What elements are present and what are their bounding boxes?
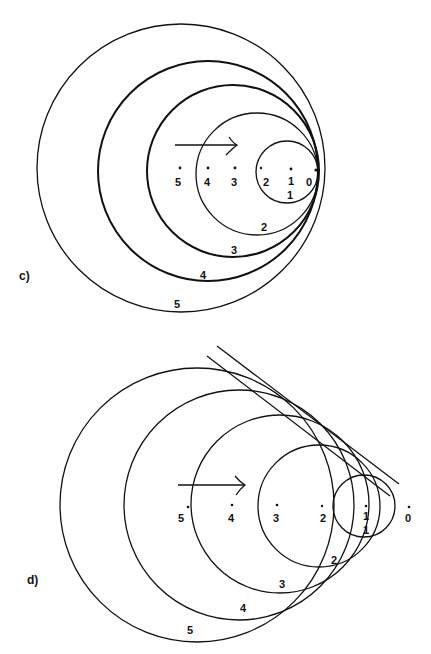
panel-label-c: c) (19, 269, 30, 283)
source-point-5 (187, 506, 190, 509)
point-label-5: 5 (178, 512, 184, 524)
point-label-0: 0 (405, 512, 411, 524)
wavefront-diagram: 5 4 3 2 1 0 1 2 3 4 5 c) 5 4 3 2 (0, 0, 431, 654)
wavefront-label-1: 1 (363, 524, 369, 536)
wavefront-circle-2 (196, 113, 318, 235)
source-point-1 (365, 505, 368, 508)
wavefront-label-2: 2 (261, 221, 267, 233)
point-label-2: 2 (320, 512, 326, 524)
wavefront-label-3: 3 (231, 244, 237, 256)
source-point-1 (290, 168, 293, 171)
source-point-4 (207, 167, 210, 170)
wavefront-circle-3 (147, 85, 319, 257)
point-label-4: 4 (228, 512, 235, 524)
source-point-0 (314, 168, 317, 171)
wavefront-label-3: 3 (279, 578, 285, 590)
panel-c: 5 4 3 2 1 0 1 2 3 4 5 c) (19, 24, 325, 312)
wavefront-label-2: 2 (331, 554, 337, 566)
mach-cone-line-outer (217, 346, 399, 484)
panel-label-d: d) (27, 573, 38, 587)
wavefront-circle-4 (98, 61, 318, 281)
point-label-0: 0 (306, 176, 312, 188)
source-point-3 (234, 167, 237, 170)
wavefront-label-5: 5 (174, 298, 180, 310)
point-label-4: 4 (204, 176, 211, 188)
source-point-5 (179, 167, 182, 170)
motion-arrow (178, 476, 245, 495)
source-point-3 (276, 504, 279, 507)
point-label-1: 1 (363, 510, 369, 522)
source-point-2 (321, 505, 323, 507)
point-label-1: 1 (288, 175, 294, 187)
point-label-5: 5 (175, 176, 181, 188)
wavefront-label-5: 5 (187, 624, 193, 636)
wavefront-label-4: 4 (240, 602, 247, 614)
point-label-3: 3 (231, 176, 237, 188)
source-point-2 (260, 167, 262, 169)
source-point-4 (231, 504, 234, 507)
wavefront-label-4: 4 (200, 269, 207, 281)
point-label-2: 2 (263, 176, 269, 188)
wavefront-label-1: 1 (287, 189, 293, 201)
wavefront-circle-5 (60, 368, 334, 642)
source-point-0 (408, 506, 411, 509)
panel-d: 5 4 3 2 1 0 1 2 3 4 5 d) (27, 346, 411, 642)
point-label-3: 3 (273, 512, 279, 524)
